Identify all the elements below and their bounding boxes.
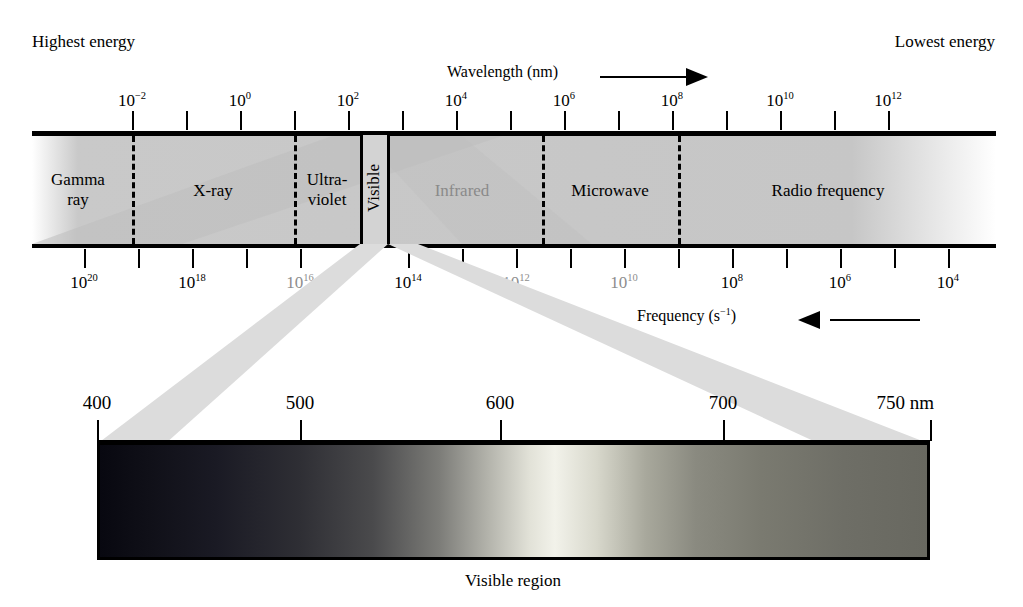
- visible-scale-tick: [500, 420, 502, 441]
- visible-scale-label: 700: [709, 392, 738, 414]
- wavelength-tick-label: 10−2: [118, 90, 146, 111]
- region-label-radio-frequency: Radio frequency: [772, 181, 885, 201]
- tick-exponent: 8: [678, 90, 683, 101]
- wavelength-arrow-shaft: [600, 76, 690, 78]
- wavelength-tick: [402, 111, 404, 130]
- tick-mantissa: 10: [874, 91, 891, 110]
- wavelength-tick: [294, 111, 296, 130]
- visible-scale-label: 500: [286, 392, 315, 414]
- visible-scale-label: 750 nm: [876, 392, 934, 414]
- visible-scale-tick: [723, 420, 725, 441]
- tick-mantissa: 10: [445, 91, 462, 110]
- tick-exponent: 2: [354, 90, 359, 101]
- region-label-line: X-ray: [193, 181, 233, 200]
- region-label-line: violet: [308, 190, 347, 209]
- region-label-line: ray: [67, 190, 89, 209]
- figure-caption: Visible region: [465, 572, 561, 589]
- region-label-line: Ultra-: [307, 170, 348, 189]
- tick-mantissa: 10: [661, 91, 678, 110]
- region-label-visible: Visible: [364, 158, 384, 218]
- region-label-infrared: Infrared: [435, 181, 490, 201]
- wavelength-tick-label: 1010: [766, 90, 794, 111]
- tick-exponent: 6: [570, 90, 575, 101]
- tick-mantissa: 10: [118, 91, 135, 110]
- visible-scale-tick: [97, 420, 99, 441]
- region-divider: [132, 136, 135, 244]
- tick-mantissa: 10: [337, 91, 354, 110]
- wavelength-tick-label: 1012: [874, 90, 902, 111]
- spectrum-band: GammarayX-rayUltra-violetVisibleInfrared…: [32, 136, 996, 244]
- wavelength-tick: [888, 111, 890, 130]
- visible-scale-tick: [300, 420, 302, 441]
- wavelength-tick: [618, 111, 620, 130]
- wavelength-tick: [240, 111, 242, 130]
- band-top-rule: [32, 132, 996, 136]
- visible-scale-tick: [930, 420, 932, 441]
- region-label-line: Infrared: [435, 181, 490, 200]
- tick-mantissa: 10: [229, 91, 246, 110]
- tick-exponent: 10: [783, 90, 794, 101]
- visible-region-callout-cone: [0, 244, 1023, 444]
- wavelength-tick: [186, 111, 188, 130]
- visible-spectrum-bar: [97, 442, 930, 560]
- wavelength-tick: [726, 111, 728, 130]
- right-arrow-icon: [686, 68, 708, 86]
- region-label-ultraviolet: Ultra-violet: [307, 170, 348, 209]
- visible-scale-label: 600: [486, 392, 515, 414]
- wavelength-axis-title: Wavelength (nm): [447, 64, 558, 80]
- tick-exponent: 0: [246, 90, 251, 101]
- wavelength-tick-label: 108: [661, 90, 683, 111]
- wavelength-tick-label: 102: [337, 90, 359, 111]
- tick-mantissa: 10: [766, 91, 783, 110]
- wavelength-tick: [564, 111, 566, 130]
- tick-exponent: 12: [891, 90, 902, 101]
- electromagnetic-spectrum-figure: Highest energy Lowest energy Wavelength …: [0, 0, 1023, 607]
- wavelength-tick: [672, 111, 674, 130]
- wavelength-tick: [834, 111, 836, 130]
- wavelength-tick: [132, 111, 134, 130]
- wavelength-tick: [510, 111, 512, 130]
- visible-scale-label: 400: [83, 392, 112, 414]
- wavelength-tick-label: 106: [553, 90, 575, 111]
- wavelength-tick-label: 100: [229, 90, 251, 111]
- region-label-gamma-ray: Gammaray: [51, 170, 105, 209]
- region-label-line: Microwave: [571, 181, 648, 200]
- region-label-line: Radio frequency: [772, 181, 885, 200]
- region-divider: [542, 136, 545, 244]
- region-divider: [294, 136, 297, 244]
- tick-exponent: −2: [135, 90, 146, 101]
- wavelength-tick: [348, 111, 350, 130]
- region-label-line: Gamma: [51, 170, 105, 189]
- highest-energy-label: Highest energy: [32, 33, 135, 50]
- region-label-x-ray: X-ray: [193, 181, 233, 201]
- wavelength-tick: [780, 111, 782, 130]
- region-divider: [678, 136, 681, 244]
- wavelength-tick: [456, 111, 458, 130]
- wavelength-tick-label: 104: [445, 90, 467, 111]
- lowest-energy-label: Lowest energy: [895, 33, 995, 50]
- tick-mantissa: 10: [553, 91, 570, 110]
- tick-exponent: 4: [462, 90, 467, 101]
- region-label-microwave: Microwave: [571, 181, 648, 201]
